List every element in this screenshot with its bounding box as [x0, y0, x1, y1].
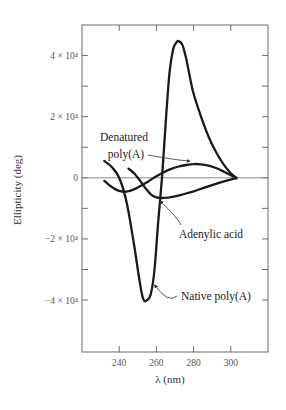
- y-axis-title: Ellipticity (deg): [11, 155, 24, 225]
- y-tick-label: −2 × 10⁴: [45, 234, 79, 244]
- y-tick-label: 0: [73, 173, 78, 183]
- x-axis-title: λ (nm): [155, 373, 185, 386]
- x-tick-label: 300: [224, 358, 239, 368]
- annotation-label: Denatured: [100, 131, 148, 143]
- y-tick-label: 4 × 10⁴: [50, 51, 78, 61]
- x-tick-label: 240: [112, 358, 127, 368]
- x-tick-label: 280: [186, 358, 201, 368]
- y-tick-label: −4 × 10⁴: [45, 296, 79, 306]
- annotation-label: Adenylic acid: [179, 228, 243, 241]
- annotation-label: Native poly(A): [181, 290, 251, 303]
- annotation-label: poly(A): [108, 148, 145, 161]
- x-tick-label: 260: [149, 358, 164, 368]
- chart-background: [0, 0, 286, 410]
- ellipticity-chart: 2402602803004 × 10⁴2 × 10⁴0−2 × 10⁴−4 × …: [0, 0, 286, 410]
- y-tick-label: 2 × 10⁴: [50, 112, 78, 122]
